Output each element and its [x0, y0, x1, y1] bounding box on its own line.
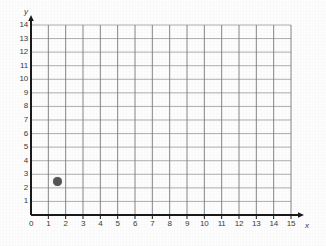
y-tick-label: 8 — [10, 102, 28, 110]
y-tick-label: 7 — [10, 116, 28, 124]
x-axis-label: x — [305, 222, 309, 230]
y-tick-label: 9 — [10, 89, 28, 97]
y-axis — [28, 15, 34, 215]
y-tick-label: 12 — [10, 48, 28, 56]
y-tick-label: 2 — [10, 184, 28, 192]
coordinate-grid-figure: 1 2 3 4 5 6 7 8 9 10 11 12 13 14 0 1 2 3… — [0, 0, 326, 246]
x-axis-tick-labels: 0 1 2 3 4 5 6 7 8 9 10 11 12 13 14 15 — [0, 219, 326, 231]
data-point — [53, 177, 62, 186]
y-tick-label: 6 — [10, 130, 28, 138]
x-tick-label: 15 — [281, 219, 301, 228]
y-tick-label: 10 — [10, 75, 28, 83]
y-tick-label: 4 — [10, 157, 28, 165]
y-tick-label: 14 — [10, 21, 28, 29]
y-tick-label: 5 — [10, 143, 28, 151]
grid-and-axes — [0, 0, 326, 246]
y-axis-tick-labels: 1 2 3 4 5 6 7 8 9 10 11 12 13 14 — [10, 0, 28, 246]
y-tick-label: 3 — [10, 170, 28, 178]
y-tick-label: 13 — [10, 35, 28, 43]
y-axis-label: y — [24, 8, 28, 16]
y-tick-label: 1 — [10, 197, 28, 205]
horizontal-gridlines — [31, 25, 291, 201]
y-tick-label: 11 — [10, 62, 28, 70]
x-axis — [31, 212, 304, 218]
